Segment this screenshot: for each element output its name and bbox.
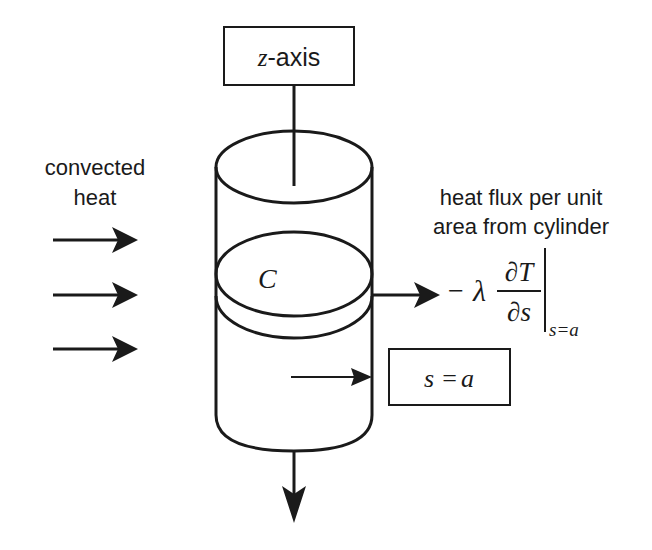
boundary-condition-box: s=a <box>389 349 510 405</box>
z-axis-variable: z <box>257 44 268 71</box>
z-axis-label: z-axis <box>257 43 321 71</box>
incoming-arrow-2 <box>53 282 138 308</box>
incoming-arrow-3 <box>53 336 138 362</box>
z-axis-label-box: z-axis <box>224 27 354 85</box>
boundary-lhs: s <box>424 364 434 393</box>
convected-heat-label-line1: convected <box>45 155 145 180</box>
cylinder-bottom-arc <box>216 415 372 451</box>
formula-numerator: ∂T <box>505 257 535 287</box>
section-slab-top-ellipse <box>216 232 372 316</box>
incoming-arrow-1 <box>53 227 138 253</box>
boundary-equals: = <box>442 364 457 393</box>
convected-heat-label-line2: heat <box>74 185 117 210</box>
heat-flux-label-line1: heat flux per unit <box>440 185 603 210</box>
arrowhead-right-icon <box>351 368 372 386</box>
formula-denominator: ∂s <box>507 297 531 327</box>
z-axis-suffix: -axis <box>267 43 320 71</box>
axial-outflow-arrow <box>282 451 306 523</box>
boundary-rhs: a <box>461 364 474 393</box>
section-label-c: C <box>258 263 277 294</box>
heat-flux-label-line2: area from cylinder <box>433 214 609 239</box>
formula-minus: − <box>448 275 464 306</box>
heat-flux-arrow <box>372 282 440 308</box>
cylinder-heat-flux-diagram: z-axis C convected heat <box>0 0 652 550</box>
heat-flux-formula: − λ ∂T ∂s s=a <box>448 248 579 340</box>
formula-subscript: s=a <box>549 319 579 340</box>
formula-lambda: λ <box>472 274 486 307</box>
boundary-box-label: s=a <box>424 364 474 393</box>
convected-heat-arrows <box>53 227 138 362</box>
radius-pointer-arrow <box>291 368 372 386</box>
